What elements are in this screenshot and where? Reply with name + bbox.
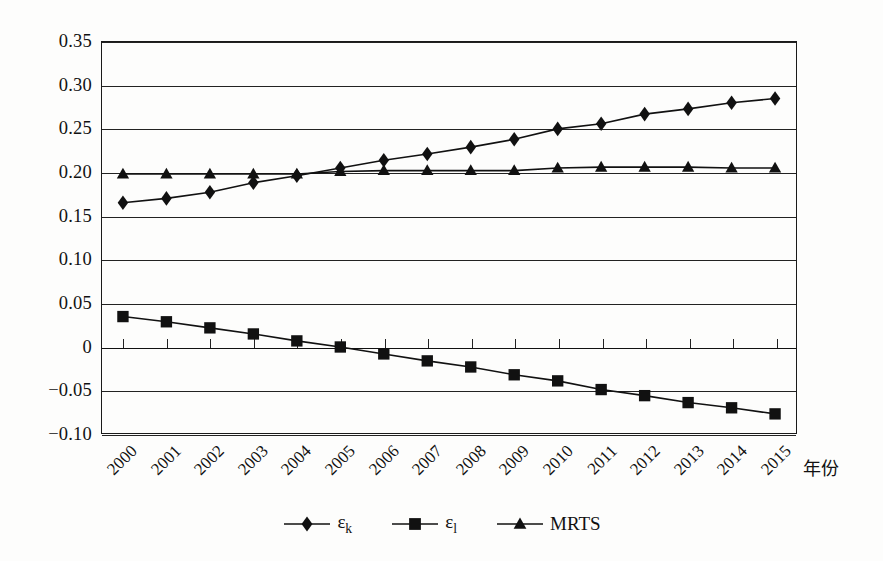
marker-square [422,355,433,366]
x-tick-label: 2001 [135,442,184,491]
x-tick-label: 2003 [222,442,271,491]
y-tick-label: 0.35 [0,32,92,51]
x-tick-label: 2015 [745,442,794,491]
marker-diamond [683,102,694,117]
marker-diamond [552,122,563,137]
marker-square [335,341,346,352]
y-tick-label: 0 [0,337,92,356]
marker-diamond [770,91,781,106]
marker-diamond [726,96,737,111]
legend-item: εl [390,512,457,535]
marker-square [595,384,606,395]
x-tick-label: 2006 [353,442,402,491]
marker-square [682,397,693,408]
x-tick-label: 2002 [178,442,227,491]
marker-square [769,408,780,419]
marker-diamond [302,516,313,531]
marker-diamond [422,147,433,162]
marker-square [117,311,128,322]
marker-square [161,316,172,327]
marker-square [378,348,389,359]
marker-square [204,322,215,333]
marker-triangle [204,168,216,179]
legend-label: εl [445,512,457,535]
y-tick-label: 0.20 [0,163,92,182]
x-tick-label: 2012 [614,442,663,491]
marker-triangle [769,162,781,173]
x-tick-label: 2013 [658,442,707,491]
marker-diamond [639,107,650,122]
marker-triangle [682,161,694,172]
legend-label: εk [337,512,352,535]
marker-diamond [205,185,216,200]
marker-triangle [378,164,390,175]
x-axis-title: 年份 [803,454,839,480]
x-tick-label: 2008 [440,442,489,491]
x-tick-label: 2010 [527,442,576,491]
series-line-εk [123,98,775,202]
x-tick-label: 2007 [396,442,445,491]
legend-label-subscript: l [453,521,457,536]
marker-triangle [160,168,172,179]
marker-square [509,369,520,380]
gridline [102,435,796,436]
y-tick-label: −0.10 [0,425,92,444]
y-tick-label: −0.05 [0,381,92,400]
y-tick-label: 0.05 [0,294,92,313]
marker-diamond [118,195,129,210]
marker-square [552,375,563,386]
legend-item: εk [282,512,352,535]
y-tick-label: 0.15 [0,206,92,225]
marker-triangle [638,161,650,172]
marker-square [639,390,650,401]
marker-square [726,402,737,413]
marker-diamond [161,191,172,206]
marker-triangle [595,161,607,172]
x-tick-label: 2000 [91,442,140,491]
marker-square [248,328,259,339]
x-tick-label: 2009 [484,442,533,491]
chart-legend: εkεlMRTS [0,512,883,535]
y-tick-label: 0.30 [0,75,92,94]
marker-triangle [247,168,259,179]
marker-diamond [509,132,520,147]
marker-triangle [421,164,433,175]
marker-triangle [514,517,527,528]
series-layer [102,42,796,433]
marker-square [409,518,421,530]
plot-area [101,41,797,434]
x-tick-label: 2014 [702,442,751,491]
x-tick-label: 2005 [309,442,358,491]
legend-symbol-triangle [495,514,545,534]
marker-diamond [465,140,476,155]
legend-label: MRTS [550,514,601,533]
marker-square [291,335,302,346]
legend-symbol-diamond [282,514,332,534]
marker-square [465,361,476,372]
marker-triangle [465,164,477,175]
x-tick-label: 2004 [266,442,315,491]
legend-item: MRTS [495,514,601,534]
legend-label-subscript: k [345,521,352,536]
series-line-MRTS [123,167,775,174]
y-tick-label: 0.25 [0,119,92,138]
marker-triangle [117,168,129,179]
marker-diamond [596,116,607,131]
chart-figure: 0.350.300.250.200.150.100.050−0.05−0.10 … [0,0,883,561]
y-tick-label: 0.10 [0,250,92,269]
legend-label-main: ε [445,511,453,532]
series-line-εl [123,317,775,414]
legend-symbol-square [390,514,440,534]
x-tick-label: 2011 [571,442,620,491]
